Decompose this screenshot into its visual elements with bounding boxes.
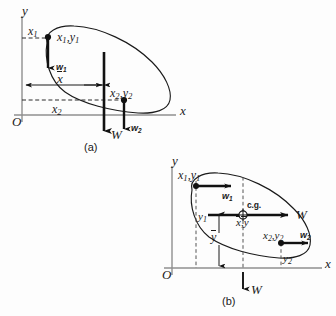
panel-b-point1-label: x1,y1	[178, 169, 200, 183]
panel-a-point2-label: x2,y2	[110, 87, 132, 101]
panel-b-centroid-label: x,y	[236, 217, 249, 228]
panel-a-x2-tick-label: x2	[52, 103, 62, 117]
panel-b-cg-label: c.g.	[247, 201, 261, 210]
panel-a-y-axis-label: y	[22, 4, 28, 17]
panel-b-caption: (b)	[222, 296, 235, 307]
panel-b-W-right-label: W	[296, 208, 307, 221]
figure-container: y x O x1 x1,y1 w1 x x2 x2,y2 W w2 (a) y …	[0, 0, 336, 316]
panel-a-w2-label: w2	[131, 124, 142, 134]
panel-a-x1-tick-label: x1	[28, 25, 38, 39]
panel-a-caption: (a)	[84, 142, 97, 153]
panel-b-y1-label: y1	[198, 211, 207, 224]
panel-b-point2-label: x2,y2	[263, 230, 283, 243]
xbar-dimension-a	[26, 78, 104, 92]
panel-b-x-axis-label: x	[325, 257, 331, 270]
panel-b-w1-label: w1	[222, 192, 233, 202]
panel-a-x-axis-label: x	[180, 104, 186, 117]
panel-b-origin-label: O	[162, 268, 171, 281]
panel-a-xbar-label: x	[57, 72, 63, 85]
panel-a-point1-label: x1,y1	[57, 31, 79, 45]
panel-a-origin-label: O	[12, 115, 21, 128]
point1-dot-a	[45, 34, 51, 40]
panel-b-y-axis-label: y	[172, 154, 178, 167]
panel-b-y2-label: y2	[283, 253, 292, 266]
panel-a-axes	[14, 16, 176, 122]
panel-b-ybar-label: y	[211, 231, 216, 243]
panel-b-w2-label: w2	[300, 231, 311, 241]
point1-dot-b	[193, 183, 199, 189]
panel-b-W-down-label: W	[251, 283, 262, 296]
panel-a-W-label: W	[111, 128, 122, 141]
